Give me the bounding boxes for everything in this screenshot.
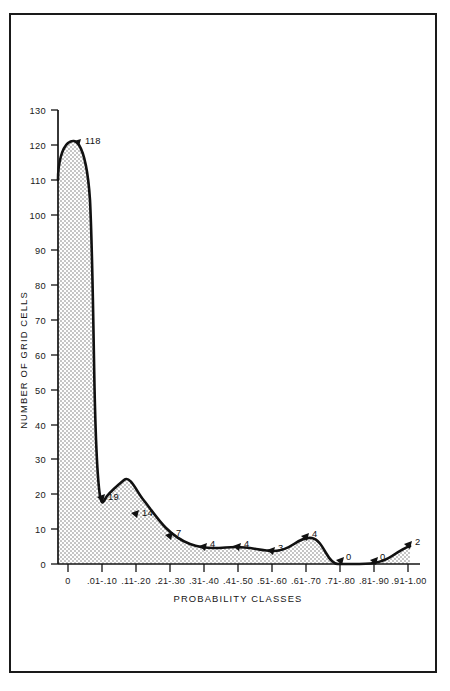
y-tick-label-110: 110 <box>30 176 46 186</box>
data-label-1: 19 <box>108 491 119 502</box>
y-tick-label-40: 40 <box>35 421 46 431</box>
y-tick-label-80: 80 <box>35 281 46 291</box>
x-tick-label-0: 0 <box>65 576 70 586</box>
y-axis-title: NUMBER OF GRID CELLS <box>18 291 29 429</box>
y-tick-label-100: 100 <box>30 211 46 221</box>
figure-root: 130 120 110 100 90 80 70 60 50 40 30 20 … <box>0 0 450 691</box>
data-label-2: 14 <box>142 507 153 518</box>
y-tick-label-120: 120 <box>30 141 46 151</box>
data-label-0: 118 <box>85 135 101 146</box>
x-tick-label-9: .81-.90 <box>359 576 389 586</box>
y-tick-label-50: 50 <box>35 386 46 396</box>
y-tick-label-20: 20 <box>35 490 46 500</box>
data-label-9: 0 <box>380 551 386 562</box>
data-label-5: 4 <box>244 538 250 549</box>
data-label-7: 4 <box>312 528 318 539</box>
x-tick-label-7: .61-.70 <box>291 576 321 586</box>
data-label-8: 0 <box>346 551 352 562</box>
x-tick-label-2: .11-.20 <box>121 576 150 586</box>
x-tick-label-4: .31-.40 <box>189 576 219 586</box>
y-tick-label-90: 90 <box>35 246 46 256</box>
chart-canvas: 130 120 110 100 90 80 70 60 50 40 30 20 … <box>0 0 450 691</box>
x-tick-label-1: .01-.10 <box>87 576 117 586</box>
x-tick-label-10: .91-1.00 <box>391 576 426 586</box>
data-label-10: 2 <box>415 536 421 547</box>
x-tick-label-8: .71-.80 <box>325 576 355 586</box>
y-tick-label-30: 30 <box>35 455 46 465</box>
data-label-3: 7 <box>176 527 182 538</box>
histogram-chart: 130 120 110 100 90 80 70 60 50 40 30 20 … <box>0 0 450 691</box>
x-tick-label-5: .41-.50 <box>223 576 253 586</box>
y-tick-label-10: 10 <box>35 525 46 535</box>
data-label-6: 3 <box>278 542 284 553</box>
y-tick-label-60: 60 <box>35 351 46 361</box>
y-tick-label-0: 0 <box>41 560 46 570</box>
data-label-4: 4 <box>210 538 216 549</box>
y-tick-label-70: 70 <box>35 316 46 326</box>
x-tick-label-3: .21-.30 <box>155 576 185 586</box>
x-tick-label-6: .51-.60 <box>257 576 287 586</box>
y-tick-label-130: 130 <box>30 106 46 116</box>
x-axis-title: PROBABILITY CLASSES <box>173 593 302 604</box>
